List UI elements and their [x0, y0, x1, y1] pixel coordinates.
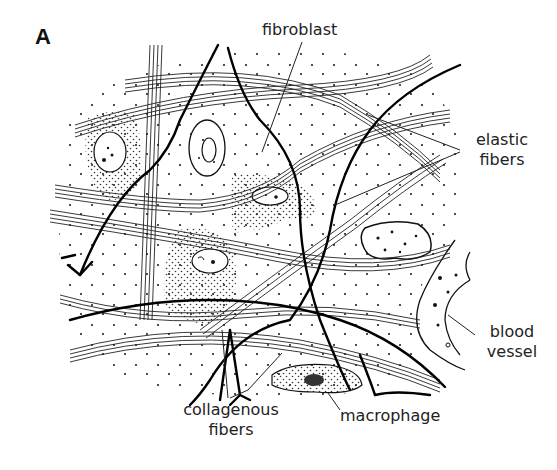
label-fibroblast-text: fibroblast [262, 20, 337, 39]
label-elastic-fibers: elastic fibers [462, 130, 542, 170]
connective-tissue-diagram: A fibroblast elastic fibers blood vessel… [0, 0, 557, 470]
label-fibroblast: fibroblast [262, 20, 337, 40]
label-macrophage: macrophage [340, 406, 440, 426]
label-collagen-line1: collagenous [176, 400, 286, 420]
label-macrophage-text: macrophage [340, 406, 440, 425]
label-blood-vessel: blood vessel [472, 322, 552, 362]
label-blood-line2: vessel [472, 342, 552, 362]
label-elastic-line2: fibers [462, 150, 542, 170]
panel-letter: A [35, 24, 51, 50]
label-blood-line1: blood [472, 322, 552, 342]
label-elastic-line1: elastic [462, 130, 542, 150]
label-collagenous-fibers: collagenous fibers [176, 400, 286, 440]
plasma-cell [189, 120, 225, 176]
label-collagen-line2: fibers [176, 420, 286, 440]
